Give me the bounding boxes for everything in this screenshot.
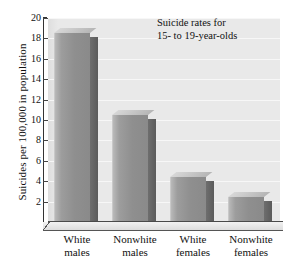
bar-nonwhite-females [228,197,264,223]
y-tick-mark-6 [43,161,48,162]
annotation-line-1: Suicide rates for [157,16,237,29]
y-tick-label-2: 2 [17,197,41,207]
y-tick-mark-18 [43,38,48,39]
annotation-line-2: 15- to 19-year-olds [157,29,237,42]
y-tick-label-20: 20 [17,13,41,23]
y-tick-mark-10 [43,120,48,121]
y-tick-mark-16 [43,59,48,60]
bar-side-face [264,201,272,223]
x-axis-category-labels: WhitemalesNonwhitemalesWhitefemalesNonwh… [43,233,283,263]
category-label-line: Nonwhite [215,233,287,246]
bar-front-face [228,197,264,223]
bar-nonwhite-males [112,115,148,222]
floor-bottom-edge [43,230,283,231]
bar-top-face [112,110,154,115]
bar-front-face [112,115,148,222]
chart-floor [43,221,283,231]
y-tick-mark-4 [43,181,48,182]
bar-side-face [90,37,98,222]
floor-left-bevel [43,221,50,230]
chart-annotation: Suicide rates for 15- to 19-year-olds [157,16,237,42]
bar-top-face [54,28,96,33]
y-axis-tick-labels: 2018161412108642 [17,0,41,265]
bar-white-females [170,177,206,222]
y-tick-mark-20 [43,18,48,19]
y-tick-mark-12 [43,100,48,101]
plot-area [48,18,280,222]
y-tick-mark-2 [43,202,48,203]
y-tick-label-6: 6 [17,156,41,166]
category-label-line: females [215,246,287,259]
bar-front-face [54,33,90,222]
y-tick-label-4: 4 [17,176,41,186]
bar-top-face [228,192,270,197]
y-tick-label-16: 16 [17,54,41,64]
y-tick-label-12: 12 [17,95,41,105]
floor-top-edge [48,221,283,222]
bar-white-males [54,33,90,222]
y-tick-label-18: 18 [17,33,41,43]
bar-top-face [170,172,212,177]
bar-side-face [148,119,156,222]
y-tick-label-14: 14 [17,74,41,84]
y-tick-mark-8 [43,140,48,141]
y-tick-label-8: 8 [17,135,41,145]
y-tick-label-10: 10 [17,115,41,125]
bar-side-face [206,181,214,222]
x-category-label-nonwhite-females: Nonwhitefemales [215,233,287,259]
y-tick-mark-14 [43,79,48,80]
bar-chart: Suicides per 100,000 in population 20181… [0,0,287,265]
bar-front-face [170,177,206,222]
